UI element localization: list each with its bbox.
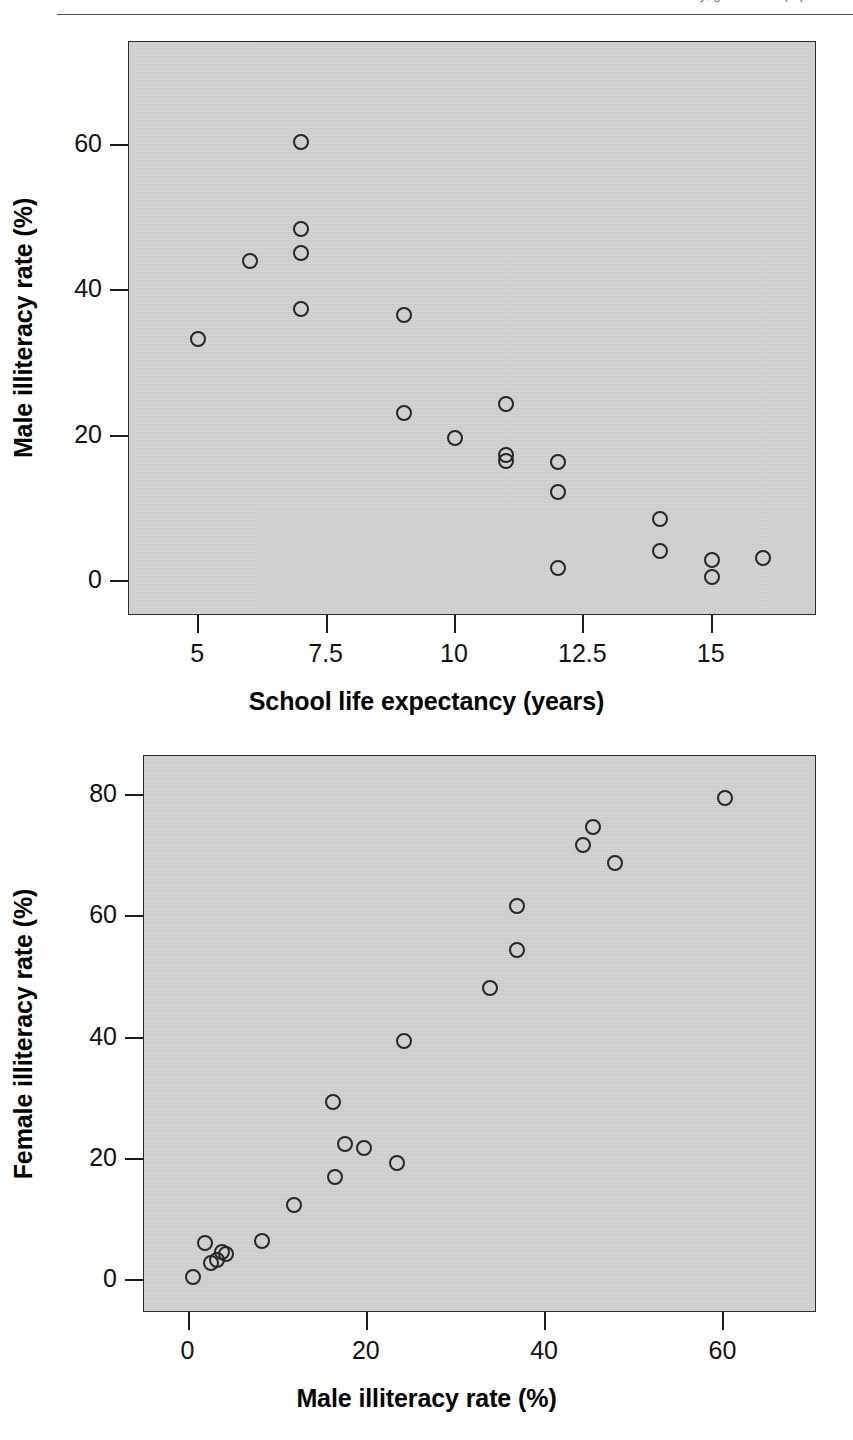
data-point: [585, 819, 601, 835]
data-point: [396, 1033, 412, 1049]
x-axis-tick: [366, 1312, 368, 1330]
y-axis-title-bottom: Female illiteracy rate (%): [9, 888, 38, 1179]
data-point: [286, 1197, 302, 1213]
data-point: [509, 898, 525, 914]
data-point: [197, 1235, 213, 1251]
x-axis-tick: [544, 1312, 546, 1330]
y-axis-tick-label: 80: [35, 781, 117, 806]
data-point: [242, 253, 258, 269]
data-point: [498, 453, 514, 469]
data-point: [652, 511, 668, 527]
x-axis-tick-label: 40: [484, 1338, 604, 1363]
data-point: [550, 454, 566, 470]
data-point: [704, 569, 720, 585]
plot-area-bottom: [143, 755, 816, 1312]
data-point: [389, 1155, 405, 1171]
x-axis-tick-label: 10: [394, 641, 514, 666]
data-point: [575, 837, 591, 853]
y-axis-tick: [110, 580, 128, 582]
data-point: [337, 1136, 353, 1152]
x-axis-tick: [722, 1312, 724, 1330]
x-axis-tick: [582, 615, 584, 633]
data-point: [482, 980, 498, 996]
data-point: [293, 134, 309, 150]
x-axis-tick-label: 60: [662, 1338, 782, 1363]
data-point: [755, 550, 771, 566]
x-axis-tick-label: 5: [137, 641, 257, 666]
y-axis-tick-label: 40: [35, 1024, 117, 1049]
data-point: [550, 560, 566, 576]
x-axis-tick-label: 20: [306, 1338, 426, 1363]
data-point: [704, 552, 720, 568]
data-point: [550, 484, 566, 500]
x-axis-tick-label: 15: [651, 641, 771, 666]
data-point: [509, 942, 525, 958]
x-axis-tick: [197, 615, 199, 633]
x-axis-tick-label: 0: [128, 1338, 248, 1363]
data-point: [356, 1140, 372, 1156]
data-point: [185, 1269, 201, 1285]
y-axis-tick: [110, 289, 128, 291]
y-axis-tick-label: 0: [20, 567, 102, 592]
x-axis-tick: [454, 615, 456, 633]
y-axis-tick: [110, 435, 128, 437]
data-point: [607, 855, 623, 871]
data-point: [293, 221, 309, 237]
data-point: [447, 430, 463, 446]
data-point: [218, 1246, 234, 1262]
x-axis-tick: [188, 1312, 190, 1330]
y-axis-tick: [125, 1279, 143, 1281]
plot-area-top: [128, 41, 816, 615]
y-axis-tick: [110, 144, 128, 146]
data-point: [652, 543, 668, 559]
x-axis-tick-label: 12.5: [522, 641, 642, 666]
y-axis-tick: [125, 915, 143, 917]
data-point: [396, 405, 412, 421]
y-axis-tick: [125, 1158, 143, 1160]
figure-female-vs-male-illiteracy: 0204060800204060 Female illiteracy rate …: [0, 710, 853, 1440]
data-point: [498, 396, 514, 412]
data-point: [396, 307, 412, 323]
y-axis-tick-label: 60: [20, 131, 102, 156]
data-point: [327, 1169, 343, 1185]
x-axis-tick-label: 7.5: [266, 641, 386, 666]
y-axis-tick: [125, 794, 143, 796]
y-axis-tick-label: 0: [35, 1266, 117, 1291]
figure-male-illiteracy-vs-school-life-expectancy: 020406057.51012.515 Male illiteracy rate…: [0, 0, 853, 710]
y-axis-tick-label: 60: [35, 902, 117, 927]
x-axis-tick: [326, 615, 328, 633]
data-point: [293, 301, 309, 317]
data-point: [190, 331, 206, 347]
y-axis-title-top: Male illiteracy rate (%): [9, 198, 38, 458]
x-axis-title-bottom: Male illiteracy rate (%): [0, 1384, 853, 1413]
x-axis-tick: [711, 615, 713, 633]
data-point: [254, 1233, 270, 1249]
y-axis-tick: [125, 1037, 143, 1039]
data-point: [325, 1094, 341, 1110]
y-axis-tick-label: 20: [35, 1145, 117, 1170]
data-point: [717, 790, 733, 806]
data-point: [293, 245, 309, 261]
